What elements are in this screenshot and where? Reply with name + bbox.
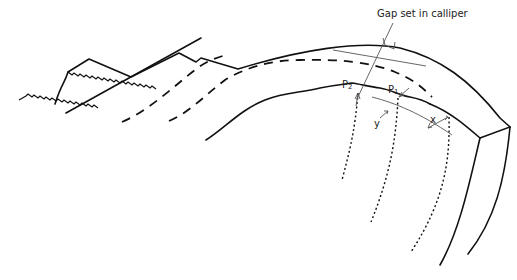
point-p1-label: P1 bbox=[388, 84, 399, 96]
step-edge bbox=[67, 62, 196, 72]
dotted-radial-p2 bbox=[342, 93, 358, 180]
dimension-x-label: x bbox=[430, 114, 436, 125]
point-p2-label: P2 bbox=[342, 79, 353, 91]
reference-arc bbox=[372, 97, 452, 135]
dashed-curve-upper bbox=[122, 55, 226, 122]
outer-stepped-profile bbox=[68, 45, 510, 127]
block-front-top bbox=[480, 127, 510, 138]
dimension-y-label: y bbox=[374, 118, 380, 129]
calliper-gap-diagram: Gap set in calliper P2 P1 y x bbox=[0, 0, 517, 280]
band-inner-edge bbox=[430, 104, 480, 138]
dotted-radial-p1 bbox=[371, 98, 398, 222]
arrow-y bbox=[380, 111, 388, 118]
zigzag-upper bbox=[68, 72, 156, 89]
block-outer-edge bbox=[468, 127, 510, 254]
curved-cut bbox=[55, 72, 68, 104]
dotted-radial-x bbox=[411, 117, 449, 252]
gap-set-label: Gap set in calliper bbox=[377, 8, 469, 19]
